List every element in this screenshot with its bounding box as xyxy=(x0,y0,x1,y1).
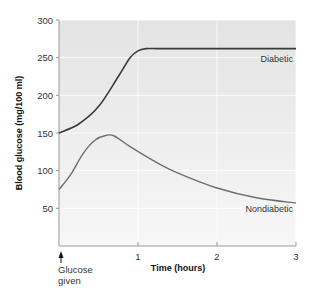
y-tick-label: 150 xyxy=(37,128,53,139)
up-arrow-icon xyxy=(59,251,64,258)
svg-text:given: given xyxy=(58,275,81,286)
y-tick-label: 100 xyxy=(37,165,53,176)
y-axis-title: Blood glucose (mg/100 ml) xyxy=(14,76,24,191)
svg-text:Glucose: Glucose xyxy=(58,264,93,275)
y-tick-label: 200 xyxy=(37,90,53,101)
y-tick-label: 300 xyxy=(37,15,53,26)
glucose-given-annotation: Glucose given xyxy=(58,251,93,286)
blood-glucose-chart: 50100150200250300 123 Diabetic Nondiabet… xyxy=(0,0,313,300)
diabetic-label: Diabetic xyxy=(260,54,293,64)
y-tick-label: 50 xyxy=(42,203,53,214)
y-axis-ticks: 50100150200250300 xyxy=(37,15,59,214)
x-tick-label: 2 xyxy=(214,251,219,262)
y-tick-label: 250 xyxy=(37,52,53,63)
nondiabetic-label: Nondiabetic xyxy=(245,204,293,214)
x-tick-label: 3 xyxy=(293,251,298,262)
x-tick-label: 1 xyxy=(135,251,140,262)
x-axis-title: Time (hours) xyxy=(151,263,205,273)
